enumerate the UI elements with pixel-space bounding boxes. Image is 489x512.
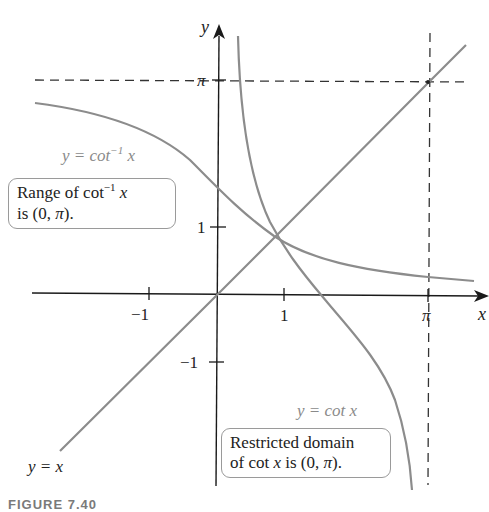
x-axis-label: x — [478, 305, 486, 323]
figure-caption: FIGURE 7.40 — [8, 497, 97, 512]
x-tick-label-1: 1 — [280, 307, 289, 324]
x-tick-label-pi: π — [422, 307, 431, 324]
dashed-line-x-pi — [428, 33, 430, 485]
y-tick-label-neg1: −1 — [180, 354, 198, 371]
range-annotation-box: Range of cot−1 x is (0, π). — [8, 178, 176, 229]
curve-label-arccot: y = cot−1 x — [62, 147, 135, 164]
dashed-line-y-pi — [35, 80, 470, 82]
curve-cot — [238, 36, 412, 490]
intersection-point-pi — [426, 80, 430, 84]
curve-label-identity: y = x — [28, 458, 63, 475]
curve-identity — [60, 45, 466, 451]
curve-label-cot: y = cot x — [297, 402, 357, 419]
domain-annotation-box: Restricted domain of cot x is (0, π). — [221, 428, 391, 478]
x-tick-label-neg1: −1 — [131, 306, 149, 323]
y-axis-label: y — [201, 18, 209, 36]
x-axis — [32, 293, 480, 296]
y-tick-label-pi: π — [197, 72, 206, 89]
y-tick-label-1: 1 — [197, 219, 206, 236]
y-axis — [216, 36, 219, 486]
